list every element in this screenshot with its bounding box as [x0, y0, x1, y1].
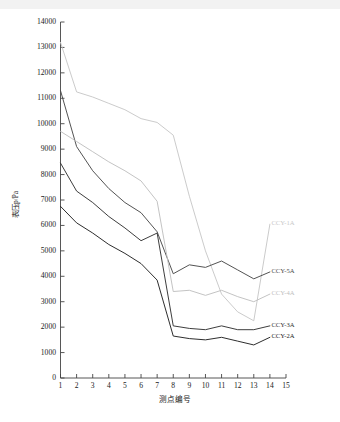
series-label-ccy-2a: CCY-2A [271, 332, 294, 339]
y-tick-label: 8000 [10, 170, 56, 179]
x-axis-title: 测点编号 [145, 393, 205, 404]
y-tick-label: 3000 [10, 297, 56, 306]
y-tick-label: 5000 [10, 246, 56, 255]
y-tick-label: 4000 [10, 271, 56, 280]
y-tick-label: 12000 [10, 68, 56, 77]
x-tick-label: 15 [276, 381, 296, 390]
series-label-ccy-1a: CCY-1A [271, 219, 294, 226]
y-tick-label: 6000 [10, 220, 56, 229]
series-line-ccy-4a [61, 131, 270, 301]
y-tick-label: 11000 [10, 93, 56, 102]
y-tick-label: 9000 [10, 144, 56, 153]
series-group [61, 42, 270, 345]
series-line-ccy-5a [61, 91, 270, 279]
y-tick-label: 13000 [10, 42, 56, 51]
y-axis-title: 表压p/Pa [9, 191, 20, 218]
series-label-ccy-4a: CCY-4A [271, 289, 294, 296]
y-tick-label: 1000 [10, 348, 56, 357]
series-label-ccy-5a: CCY-5A [271, 267, 294, 274]
y-tick-label: 0 [10, 373, 56, 382]
y-tick-label: 10000 [10, 119, 56, 128]
y-tick-label: 2000 [10, 322, 56, 331]
y-tick-label: 14000 [10, 17, 56, 26]
chart-page: 0100020003000400050006000700080009000100… [0, 0, 340, 422]
series-label-ccy-3a: CCY-3A [271, 321, 294, 328]
line-chart-canvas [0, 0, 340, 422]
series-line-ccy-2a [61, 206, 270, 345]
